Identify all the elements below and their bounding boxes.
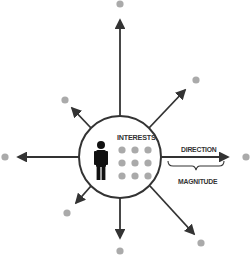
target-dot-down-right — [197, 239, 204, 246]
arrow-down-left-icon — [76, 186, 91, 203]
interest-dot — [118, 159, 125, 166]
magnitude-brace-icon — [168, 161, 224, 170]
arrow-down-right-icon — [150, 186, 194, 234]
arrow-up-left-icon — [72, 108, 91, 128]
target-dot-down-left — [63, 209, 70, 216]
interest-dot — [144, 146, 151, 153]
target-dot-down — [116, 247, 123, 254]
interest-dot — [131, 172, 138, 179]
direction-label: DIRECTION — [181, 146, 217, 153]
target-dot-right — [242, 153, 249, 160]
arrow-up-right-icon — [149, 90, 185, 128]
interest-dot — [131, 146, 138, 153]
target-dot-left — [1, 153, 8, 160]
magnitude-label: MAGNITUDE — [178, 178, 218, 185]
interests-label: INTERESTS — [117, 133, 156, 142]
interest-dot — [118, 172, 125, 179]
interest-vector-diagram: INTERESTS DIRECTION MAGNITUDE — [0, 0, 252, 266]
interest-dot — [131, 159, 138, 166]
interest-dots-grid — [118, 146, 151, 179]
target-dot-up-right — [192, 76, 199, 83]
interest-dot — [144, 172, 151, 179]
target-dot-up-left — [61, 96, 68, 103]
interest-dot — [144, 159, 151, 166]
person-circle — [79, 116, 161, 198]
interest-dot — [118, 146, 125, 153]
diagram-canvas: INTERESTS DIRECTION MAGNITUDE — [0, 0, 252, 266]
target-dot-up — [116, 0, 123, 7]
